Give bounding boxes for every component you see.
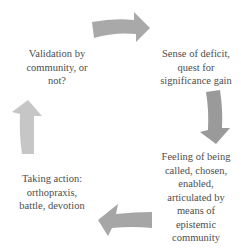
node-text-line: community, or — [14, 61, 100, 75]
node-text-line: significance gain — [152, 74, 240, 88]
node-action: Taking action: orthopraxis, battle, devo… — [8, 172, 96, 213]
node-text-line: Feeling of being — [152, 150, 240, 164]
node-text-line: battle, devotion — [8, 199, 96, 213]
node-text-line: epistemic — [152, 218, 240, 232]
node-feeling: Feeling of being called, chosen, enabled… — [152, 150, 240, 245]
node-text-line: quest for — [152, 61, 240, 75]
node-text-line: enabled, — [152, 177, 240, 191]
arrow-up-icon — [6, 96, 46, 158]
node-text-line: orthopraxis, — [8, 186, 96, 200]
node-text-line: Sense of deficit, — [152, 47, 240, 61]
node-deficit: Sense of deficit, quest for significance… — [152, 47, 240, 88]
node-text-line: not? — [14, 74, 100, 88]
node-text-line: community — [152, 231, 240, 245]
node-text-line: articulated by — [152, 191, 240, 205]
node-text-line: called, chosen, — [152, 164, 240, 178]
node-text-line: means of — [152, 204, 240, 218]
arrow-down-icon — [196, 88, 232, 148]
node-validation: Validation by community, or not? — [14, 47, 100, 88]
node-text-line: Taking action: — [8, 172, 96, 186]
arrow-right-icon — [88, 10, 154, 44]
node-text-line: Validation by — [14, 47, 100, 61]
arrow-left-icon — [94, 198, 156, 238]
